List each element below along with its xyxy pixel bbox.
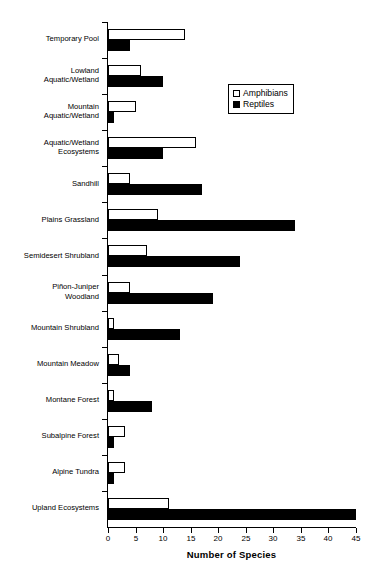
x-axis-tick — [328, 528, 329, 533]
x-axis-tick — [191, 528, 192, 533]
x-axis-tick — [356, 528, 357, 533]
bar-amphibians — [108, 245, 147, 256]
bar-reptiles — [108, 256, 240, 267]
bar-reptiles — [108, 220, 295, 231]
category-label: Mountain Shrubland — [0, 323, 99, 332]
x-axis-tick — [108, 528, 109, 533]
x-axis-tick-label: 45 — [344, 534, 368, 544]
y-axis-tick — [102, 94, 107, 95]
x-axis-tick — [218, 528, 219, 533]
bar-amphibians — [108, 426, 125, 437]
y-axis-tick — [102, 419, 107, 420]
category-label: Sandhill — [0, 179, 99, 188]
y-axis-tick — [102, 22, 107, 23]
bar-reptiles — [108, 112, 114, 123]
y-axis-tick — [102, 130, 107, 131]
bar-amphibians — [108, 282, 130, 293]
bar-amphibians — [108, 65, 141, 76]
y-axis-tick — [102, 58, 107, 59]
bar-reptiles — [108, 148, 163, 159]
category-label: Plains Grassland — [0, 215, 99, 224]
y-axis-tick — [102, 202, 107, 203]
x-axis-tick-label: 15 — [179, 534, 203, 544]
bar-reptiles — [108, 509, 356, 520]
category-label: Piñon-Juniper Woodland — [0, 282, 99, 301]
bar-amphibians — [108, 29, 185, 40]
bar-amphibians — [108, 173, 130, 184]
category-label: Subalpine Forest — [0, 431, 99, 440]
x-axis-tick-label: 0 — [96, 534, 120, 544]
bar-reptiles — [108, 437, 114, 448]
x-axis-tick-label: 5 — [124, 534, 148, 544]
bar-reptiles — [108, 76, 163, 87]
bar-reptiles — [108, 40, 130, 51]
category-label: Aquatic/Wetland Ecosystems — [0, 138, 99, 157]
y-axis-line — [107, 22, 108, 528]
bar-reptiles — [108, 184, 202, 195]
legend-swatch-amphibians-icon — [233, 90, 240, 97]
x-axis-tick — [163, 528, 164, 533]
x-axis-tick — [246, 528, 247, 533]
y-axis-tick — [102, 166, 107, 167]
category-label: Lowland Aquatic/Wetland — [0, 66, 99, 85]
bar-amphibians — [108, 390, 114, 401]
x-axis-tick-label: 20 — [206, 534, 230, 544]
x-axis-tick-label: 30 — [261, 534, 285, 544]
bar-reptiles — [108, 329, 180, 340]
legend-item-amphibians: Amphibians — [233, 88, 288, 99]
bar-amphibians — [108, 318, 114, 329]
x-axis-tick — [301, 528, 302, 533]
category-label: Mountain Aquatic/Wetland — [0, 102, 99, 121]
y-axis-tick — [102, 275, 107, 276]
bar-reptiles — [108, 401, 152, 412]
x-axis-tick — [136, 528, 137, 533]
category-label: Temporary Pool — [0, 34, 99, 43]
bar-chart: Temporary PoolLowland Aquatic/WetlandMou… — [0, 0, 379, 583]
x-axis-tick — [273, 528, 274, 533]
bar-amphibians — [108, 137, 196, 148]
chart-legend: Amphibians Reptiles — [228, 84, 294, 114]
y-axis-tick — [102, 238, 107, 239]
bar-reptiles — [108, 473, 114, 484]
legend-label-reptiles: Reptiles — [243, 99, 274, 110]
bar-reptiles — [108, 365, 130, 376]
bar-amphibians — [108, 498, 169, 509]
category-label: Semidesert Shrubland — [0, 251, 99, 260]
x-axis-tick-label: 40 — [316, 534, 340, 544]
y-axis-tick — [102, 347, 107, 348]
y-axis-tick — [102, 383, 107, 384]
bar-amphibians — [108, 101, 136, 112]
category-label: Alpine Tundra — [0, 467, 99, 476]
bar-amphibians — [108, 354, 119, 365]
y-axis-tick — [102, 311, 107, 312]
x-axis-tick-label: 35 — [289, 534, 313, 544]
bar-amphibians — [108, 209, 158, 220]
bar-amphibians — [108, 462, 125, 473]
y-axis-tick — [102, 455, 107, 456]
x-axis-tick-label: 25 — [234, 534, 258, 544]
category-label: Upland Ecosystems — [0, 503, 99, 512]
x-axis-tick-label: 10 — [151, 534, 175, 544]
legend-item-reptiles: Reptiles — [233, 99, 288, 110]
legend-swatch-reptiles-icon — [233, 101, 240, 108]
y-axis-tick — [102, 491, 107, 492]
x-axis-title: Number of Species — [107, 549, 356, 560]
category-label: Mountain Meadow — [0, 359, 99, 368]
x-axis-line — [107, 527, 356, 528]
category-label: Montane Forest — [0, 395, 99, 404]
bar-reptiles — [108, 293, 213, 304]
legend-label-amphibians: Amphibians — [243, 88, 288, 99]
